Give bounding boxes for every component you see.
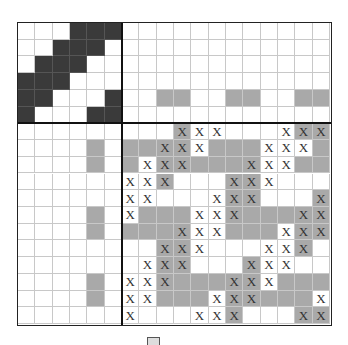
column-clue-cell[interactable] <box>191 40 208 57</box>
column-clue-cell[interactable] <box>226 90 243 107</box>
row-clue-cell[interactable] <box>87 240 104 257</box>
grid-cell[interactable] <box>139 123 156 140</box>
column-clue-cell[interactable] <box>278 56 295 73</box>
grid-cell[interactable]: X <box>313 123 330 140</box>
grid-cell[interactable]: X <box>191 240 208 257</box>
grid-cell[interactable]: X <box>278 123 295 140</box>
column-clue-cell[interactable] <box>226 107 243 124</box>
grid-cell[interactable] <box>122 224 139 241</box>
grid-cell[interactable] <box>191 174 208 191</box>
column-clue-cell[interactable] <box>209 40 226 57</box>
row-clue-cell[interactable] <box>18 291 35 308</box>
row-clue-cell[interactable] <box>18 174 35 191</box>
row-clue-cell[interactable] <box>35 123 52 140</box>
grid-cell[interactable]: X <box>209 291 226 308</box>
row-clue-cell[interactable] <box>18 307 35 324</box>
row-clue-cell[interactable] <box>87 140 104 157</box>
column-clue-cell[interactable] <box>157 107 174 124</box>
row-clue-cell[interactable] <box>53 307 70 324</box>
grid-cell[interactable]: X <box>295 207 312 224</box>
grid-cell[interactable]: X <box>243 274 260 291</box>
grid-cell[interactable]: X <box>278 257 295 274</box>
grid-cell[interactable] <box>243 240 260 257</box>
grid-cell[interactable]: X <box>209 207 226 224</box>
grid-cell[interactable] <box>261 307 278 324</box>
grid-cell[interactable] <box>313 274 330 291</box>
grid-cell[interactable] <box>261 291 278 308</box>
grid-cell[interactable] <box>313 240 330 257</box>
grid-cell[interactable]: X <box>209 123 226 140</box>
column-clue-cell[interactable] <box>261 107 278 124</box>
row-clue-cell[interactable] <box>87 207 104 224</box>
grid-cell[interactable] <box>278 307 295 324</box>
grid-cell[interactable]: X <box>139 190 156 207</box>
grid-cell[interactable] <box>209 140 226 157</box>
grid-cell[interactable]: X <box>261 257 278 274</box>
grid-cell[interactable]: X <box>139 274 156 291</box>
grid-cell[interactable]: X <box>174 140 191 157</box>
row-clue-cell[interactable] <box>87 307 104 324</box>
row-clue-cell[interactable] <box>87 257 104 274</box>
row-clue-cell[interactable] <box>105 207 122 224</box>
grid-cell[interactable]: X <box>278 157 295 174</box>
grid-cell[interactable] <box>243 224 260 241</box>
column-clue-cell[interactable] <box>226 73 243 90</box>
row-clue-cell[interactable] <box>105 140 122 157</box>
grid-cell[interactable] <box>261 207 278 224</box>
grid-cell[interactable] <box>313 140 330 157</box>
grid-cell[interactable] <box>261 224 278 241</box>
column-clue-cell[interactable] <box>313 40 330 57</box>
grid-cell[interactable]: X <box>191 224 208 241</box>
grid-cell[interactable]: X <box>295 224 312 241</box>
grid-cell[interactable]: X <box>313 190 330 207</box>
grid-cell[interactable] <box>278 274 295 291</box>
grid-cell[interactable] <box>243 307 260 324</box>
grid-cell[interactable] <box>243 207 260 224</box>
grid-cell[interactable]: X <box>295 240 312 257</box>
grid-cell[interactable] <box>139 307 156 324</box>
grid-cell[interactable]: X <box>226 274 243 291</box>
column-clue-cell[interactable] <box>278 23 295 40</box>
row-clue-cell[interactable] <box>35 140 52 157</box>
row-clue-cell[interactable] <box>53 140 70 157</box>
column-clue-cell[interactable] <box>139 23 156 40</box>
column-clue-cell[interactable] <box>157 40 174 57</box>
grid-cell[interactable]: X <box>139 291 156 308</box>
column-clue-cell[interactable] <box>174 90 191 107</box>
row-clue-cell[interactable] <box>70 307 87 324</box>
column-clue-cell[interactable] <box>243 73 260 90</box>
grid-cell[interactable]: X <box>261 240 278 257</box>
row-clue-cell[interactable] <box>53 257 70 274</box>
row-clue-cell[interactable] <box>53 190 70 207</box>
column-clue-cell[interactable] <box>261 40 278 57</box>
row-clue-cell[interactable] <box>18 140 35 157</box>
grid-cell[interactable] <box>226 140 243 157</box>
grid-cell[interactable]: X <box>243 291 260 308</box>
row-clue-cell[interactable] <box>18 190 35 207</box>
row-clue-cell[interactable] <box>18 207 35 224</box>
grid-cell[interactable]: X <box>261 174 278 191</box>
grid-cell[interactable]: X <box>174 257 191 274</box>
row-clue-cell[interactable] <box>18 224 35 241</box>
grid-cell[interactable] <box>157 224 174 241</box>
row-clue-cell[interactable] <box>105 274 122 291</box>
column-clue-cell[interactable] <box>157 73 174 90</box>
column-clue-cell[interactable] <box>122 23 139 40</box>
row-clue-cell[interactable] <box>105 190 122 207</box>
column-clue-cell[interactable] <box>243 23 260 40</box>
row-clue-cell[interactable] <box>105 291 122 308</box>
column-clue-cell[interactable] <box>209 56 226 73</box>
row-clue-cell[interactable] <box>35 257 52 274</box>
grid-cell[interactable]: X <box>191 123 208 140</box>
grid-cell[interactable]: X <box>295 140 312 157</box>
row-clue-cell[interactable] <box>53 157 70 174</box>
column-clue-cell[interactable] <box>209 23 226 40</box>
grid-cell[interactable] <box>313 257 330 274</box>
row-clue-cell[interactable] <box>35 207 52 224</box>
grid-cell[interactable]: X <box>261 140 278 157</box>
grid-cell[interactable]: X <box>243 174 260 191</box>
grid-cell[interactable] <box>122 140 139 157</box>
column-clue-cell[interactable] <box>122 40 139 57</box>
grid-cell[interactable]: X <box>313 207 330 224</box>
column-clue-cell[interactable] <box>278 90 295 107</box>
